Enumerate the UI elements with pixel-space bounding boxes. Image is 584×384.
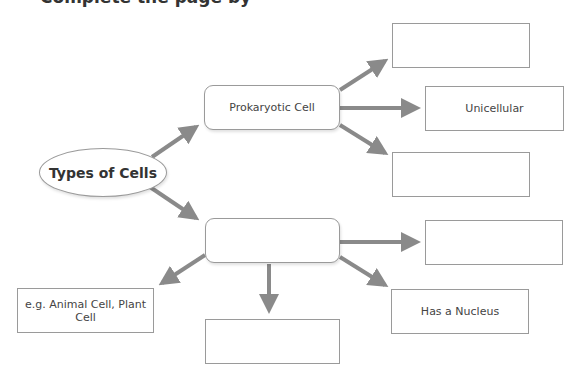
- prokaryotic-child-top-blank[interactable]: [392, 23, 530, 68]
- eukaryotic-child-right-blank[interactable]: [425, 220, 563, 265]
- prokaryotic-child-unicellular: Unicellular: [425, 86, 564, 131]
- prokaryotic-label: Prokaryotic Cell: [229, 101, 315, 114]
- root-label: Types of Cells: [49, 165, 157, 181]
- arrow-root-to-prokaryotic: [152, 127, 196, 157]
- arrow-prokaryotic-to-lower: [340, 125, 385, 153]
- has-nucleus-label: Has a Nucleus: [421, 305, 499, 318]
- unicellular-label: Unicellular: [465, 102, 523, 115]
- eukaryotic-cell-node[interactable]: [205, 218, 340, 263]
- eukaryotic-child-has-nucleus: Has a Nucleus: [391, 289, 529, 334]
- root-node-types-of-cells: Types of Cells: [39, 148, 167, 197]
- eukaryotic-child-bottom-blank[interactable]: [205, 319, 340, 364]
- prokaryotic-cell-node: Prokaryotic Cell: [204, 85, 340, 130]
- arrow-eukaryotic-to-nucleus: [340, 257, 385, 285]
- prokaryotic-child-lower-blank[interactable]: [392, 152, 530, 197]
- example-label: e.g. Animal Cell, Plant Cell: [18, 298, 153, 324]
- arrow-prokaryotic-to-top: [340, 61, 385, 90]
- arrow-eukaryotic-to-example: [162, 255, 205, 283]
- eukaryotic-child-example: e.g. Animal Cell, Plant Cell: [17, 288, 154, 333]
- arrow-root-to-eukaryotic: [150, 187, 196, 218]
